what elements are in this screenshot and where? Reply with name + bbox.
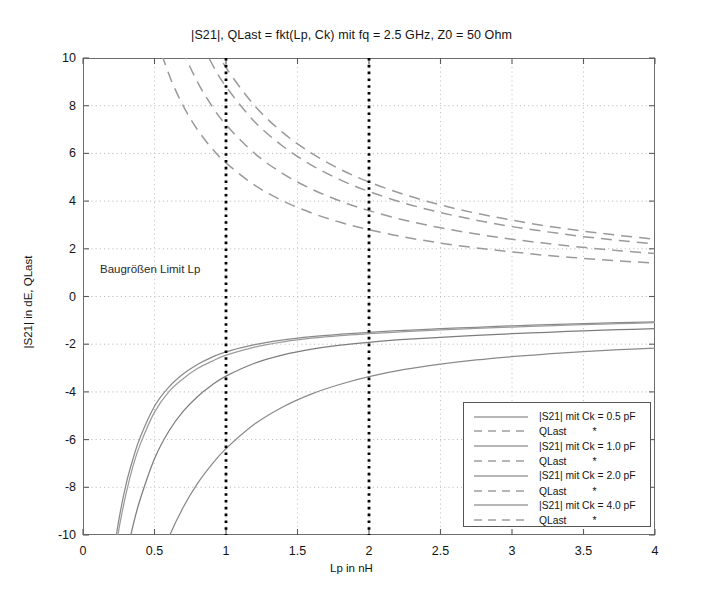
legend-solid-line-icon: [473, 439, 529, 453]
qlast-curve: [97, 0, 655, 244]
legend-label-text: |S21| mit Ck = 1.0 pF: [539, 441, 636, 452]
x-tick-label: 3.5: [575, 544, 592, 558]
y-tick-label: 8: [36, 99, 76, 113]
y-tick-label: -2: [36, 337, 76, 351]
y-tick-label: -10: [36, 528, 76, 542]
legend-label: QLast*: [539, 485, 597, 497]
legend-label-text: QLast: [539, 456, 566, 467]
legend-entry[interactable]: |S21| mit Ck = 2.0 pF: [464, 468, 650, 483]
legend-label-text: QLast: [539, 515, 566, 526]
legend-solid-line-icon: [473, 469, 529, 483]
legend-entry[interactable]: QLast*: [464, 424, 650, 439]
qlast-curve: [97, 0, 655, 254]
x-axis-label: Lp in nH: [0, 562, 703, 574]
legend-entry[interactable]: QLast*: [464, 453, 650, 468]
x-tick-label: 0: [80, 544, 87, 558]
x-tick-label: 1.5: [289, 544, 306, 558]
y-tick-label: -8: [36, 480, 76, 494]
legend-label: |S21| mit Ck = 2.0 pF: [539, 470, 636, 481]
legend-label: |S21| mit Ck = 4.0 pF: [539, 500, 636, 511]
legend-label-text: QLast: [539, 426, 566, 437]
legend-label-text: |S21| mit Ck = 2.0 pF: [539, 470, 636, 481]
legend-label-text: |S21| mit Ck = 4.0 pF: [539, 500, 636, 511]
figure-canvas: |S21|, QLast = fkt(Lp, Ck) mit fq = 2.5 …: [0, 0, 703, 593]
legend-label: QLast*: [539, 455, 597, 467]
y-tick-label: 10: [36, 51, 76, 65]
legend-label: |S21| mit Ck = 0.5 pF: [539, 411, 636, 422]
qlast-curve: [97, 0, 655, 263]
y-tick-label: -6: [36, 433, 76, 447]
y-tick-label: -4: [36, 385, 76, 399]
y-axis-label: |S21| in dE, QLast: [22, 202, 34, 402]
x-tick-label: 0.5: [146, 544, 163, 558]
x-tick-label: 2.5: [432, 544, 449, 558]
legend-entry[interactable]: QLast*: [464, 483, 650, 498]
y-tick-label: 6: [36, 146, 76, 160]
x-tick-label: 2: [366, 544, 373, 558]
legend-entry[interactable]: |S21| mit Ck = 1.0 pF: [464, 439, 650, 454]
legend-star-marker: *: [592, 485, 596, 497]
legend-label-text: QLast: [539, 486, 566, 497]
qlast-curve: [97, 0, 655, 239]
x-tick-label: 3: [509, 544, 516, 558]
legend-label: QLast*: [539, 514, 597, 526]
legend-entry[interactable]: |S21| mit Ck = 0.5 pF: [464, 409, 650, 424]
baugroessen-limit-annotation: Baugrößen Limit Lp: [100, 263, 200, 275]
legend-star-marker: *: [592, 425, 596, 437]
legend-dashed-line-icon: [473, 454, 529, 468]
legend-label-text: |S21| mit Ck = 0.5 pF: [539, 411, 636, 422]
legend-dashed-line-icon: [473, 484, 529, 498]
y-tick-label: 2: [36, 242, 76, 256]
legend-solid-line-icon: [473, 410, 529, 424]
x-tick-label: 1: [223, 544, 230, 558]
legend-entry[interactable]: |S21| mit Ck = 4.0 pF: [464, 498, 650, 513]
legend-label: QLast*: [539, 425, 597, 437]
y-tick-label: 0: [36, 290, 76, 304]
legend-star-marker: *: [592, 514, 596, 526]
legend-label: |S21| mit Ck = 1.0 pF: [539, 441, 636, 452]
chart-legend: |S21| mit Ck = 0.5 pFQLast*|S21| mit Ck …: [463, 402, 651, 527]
legend-solid-line-icon: [473, 498, 529, 512]
legend-dashed-line-icon: [473, 424, 529, 438]
y-tick-label: 4: [36, 194, 76, 208]
legend-entry[interactable]: QLast*: [464, 513, 650, 528]
legend-star-marker: *: [592, 455, 596, 467]
legend-dashed-line-icon: [473, 513, 529, 527]
x-tick-label: 4: [652, 544, 659, 558]
